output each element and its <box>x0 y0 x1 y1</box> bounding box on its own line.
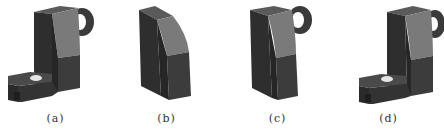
body-with-lug-icon <box>222 0 333 110</box>
body-with-lug-and-base-icon <box>333 0 444 110</box>
panel-d: (d) <box>333 0 444 140</box>
caption-a: (a) <box>0 112 111 125</box>
body-block-icon <box>111 0 222 110</box>
caption-d: (d) <box>333 112 444 125</box>
caption-b: (b) <box>111 112 222 125</box>
caption-c: (c) <box>222 112 333 125</box>
panel-c: (c) <box>222 0 333 140</box>
panel-a: (a) <box>0 0 111 140</box>
bracket-full-icon <box>0 0 111 110</box>
panel-b: (b) <box>111 0 222 140</box>
